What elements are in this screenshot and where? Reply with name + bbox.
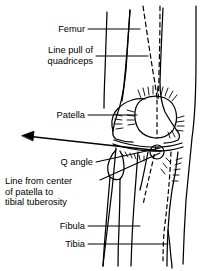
fibula-shaft-lateral bbox=[118, 179, 120, 266]
label-fibula: Fibula bbox=[0, 221, 85, 232]
lateral-contour bbox=[183, 6, 196, 264]
lateral-condyle bbox=[164, 132, 180, 143]
q-angle-arrow-line bbox=[26, 136, 161, 151]
anatomical-diagram: Femur Line pull of quadriceps Patella Q … bbox=[0, 0, 214, 271]
femur-medial-line bbox=[104, 12, 107, 108]
leader-lines bbox=[88, 29, 168, 244]
tibia-lateral-contour bbox=[167, 152, 178, 266]
q-angle-arrowhead bbox=[22, 131, 34, 140]
thigh-lateral-contour bbox=[160, 8, 178, 132]
label-tibia: Tibia bbox=[0, 239, 85, 250]
patella-outline bbox=[135, 96, 177, 138]
label-femur: Femur bbox=[0, 24, 85, 35]
label-line-from-center-of-patella: Line from center of patella to tibial tu… bbox=[5, 176, 110, 208]
label-q-angle: Q angle bbox=[0, 157, 93, 168]
lateral-soft-tissue-hatching bbox=[161, 158, 182, 181]
quadriceps-dashed-line bbox=[143, 6, 157, 100]
label-patella: Patella bbox=[0, 110, 85, 121]
tibia-distal-line bbox=[168, 230, 172, 268]
thigh-medial-contour bbox=[113, 10, 130, 131]
tibia-shaft-line bbox=[131, 152, 138, 266]
label-line-pull-of-quadriceps: Line pull of quadriceps bbox=[0, 45, 93, 66]
